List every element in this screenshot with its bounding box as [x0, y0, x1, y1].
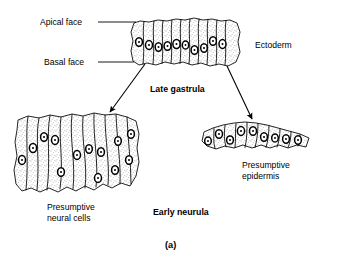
early-neurula-label: Early neurula — [153, 207, 209, 217]
arrow-to-neural — [110, 64, 145, 112]
epidermis-cells — [202, 122, 309, 149]
late-gastrula-label: Late gastrula — [150, 84, 205, 94]
ectoderm-label: Ectoderm — [255, 40, 292, 50]
arrow-to-epidermis — [227, 66, 252, 119]
neural-plate-cells — [14, 113, 139, 192]
figure-panel-a: Apical face Basal face Ectoderm Late gas… — [0, 0, 350, 259]
ectoderm-epithelium — [131, 18, 240, 66]
figure-caption: (a) — [165, 240, 176, 250]
apical-face-label: Apical face — [40, 17, 82, 27]
presumptive-epidermis-label-line2: epidermis — [242, 171, 279, 181]
presumptive-epidermis-label-line1: Presumptive — [242, 160, 290, 170]
basal-face-label: Basal face — [44, 57, 84, 67]
presumptive-neural-label-line2: neural cells — [47, 213, 90, 223]
diagram-canvas: Apical face Basal face Ectoderm Late gas… — [0, 0, 350, 259]
presumptive-neural-label-line1: Presumptive — [47, 202, 95, 212]
